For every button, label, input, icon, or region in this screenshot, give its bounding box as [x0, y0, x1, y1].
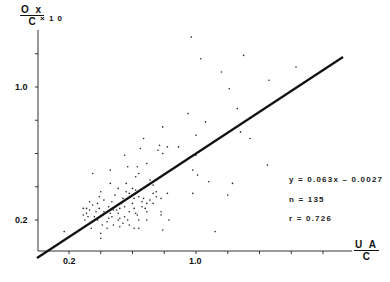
data-point: [160, 198, 162, 200]
data-point: [94, 216, 96, 218]
data-point: [141, 206, 143, 208]
data-point: [116, 209, 118, 211]
data-point: [237, 108, 239, 110]
data-point: [129, 211, 131, 213]
data-point: [103, 199, 105, 201]
data-point: [138, 219, 140, 221]
data-point: [92, 173, 94, 175]
x-axis-label: U A C: [354, 239, 379, 262]
regression-line: [37, 57, 343, 258]
data-point: [132, 203, 134, 205]
data-point: [129, 193, 131, 195]
data-point: [110, 169, 112, 171]
data-point: [90, 228, 92, 230]
data-point: [111, 216, 113, 218]
data-point: [240, 131, 242, 133]
data-point: [187, 113, 189, 115]
data-point: [144, 208, 146, 210]
x-axis-label-denominator: C: [354, 251, 379, 262]
data-point: [295, 66, 297, 68]
data-point: [195, 134, 197, 136]
data-point: [100, 233, 102, 235]
data-point: [227, 194, 229, 196]
data-point: [143, 198, 145, 200]
sample-size: n = 135: [289, 195, 325, 204]
data-point: [83, 208, 85, 210]
data-point: [157, 149, 159, 151]
data-point: [249, 138, 251, 140]
data-point: [124, 216, 126, 218]
data-point: [146, 219, 148, 221]
data-point: [89, 209, 91, 211]
data-point: [149, 179, 151, 181]
data-point: [135, 213, 137, 215]
data-point: [197, 174, 199, 176]
data-point: [125, 191, 127, 193]
data-point: [152, 203, 154, 205]
data-point: [127, 166, 129, 168]
data-point: [167, 146, 169, 148]
data-point: [200, 58, 202, 60]
data-point: [132, 188, 134, 190]
data-point: [113, 224, 115, 226]
x-tick-label-0: 0.2: [63, 256, 76, 266]
data-point: [149, 199, 151, 201]
data-point: [160, 214, 162, 216]
data-point: [110, 183, 112, 185]
data-points: [63, 36, 296, 239]
data-point: [138, 228, 140, 230]
data-point: [89, 201, 91, 203]
data-point: [108, 206, 110, 208]
data-point: [119, 226, 121, 228]
data-point: [162, 126, 164, 128]
regression-equation: y = 0.063x – 0.0027: [289, 175, 383, 184]
data-point: [100, 238, 102, 240]
data-point: [111, 201, 113, 203]
data-point: [106, 221, 108, 223]
data-point: [140, 148, 142, 150]
data-point: [208, 181, 210, 183]
data-point: [156, 196, 158, 198]
data-point: [122, 198, 124, 200]
data-point: [108, 218, 110, 220]
scatter-plot: [0, 0, 390, 282]
data-point: [159, 144, 161, 146]
data-point: [135, 176, 137, 178]
data-point: [124, 206, 126, 208]
data-point: [214, 231, 216, 233]
data-point: [152, 193, 154, 195]
regression-line-path: [37, 57, 343, 258]
data-point: [100, 191, 102, 193]
data-point: [267, 164, 269, 166]
data-point: [143, 138, 145, 140]
data-point: [86, 208, 88, 210]
data-point: [229, 88, 231, 90]
data-point: [141, 201, 143, 203]
data-point: [122, 223, 124, 225]
data-point: [178, 146, 180, 148]
data-point: [162, 153, 164, 155]
data-point: [83, 214, 85, 216]
data-point: [98, 196, 100, 198]
data-point: [138, 173, 140, 175]
data-point: [84, 219, 86, 221]
data-point: [146, 203, 148, 205]
data-point: [232, 183, 234, 185]
data-point: [146, 163, 148, 165]
data-point: [168, 219, 170, 221]
data-point: [190, 36, 192, 38]
data-point: [138, 196, 140, 198]
data-point: [63, 231, 65, 233]
data-point: [243, 55, 245, 57]
data-point: [137, 166, 139, 168]
data-point: [103, 211, 105, 213]
data-point: [117, 188, 119, 190]
data-point: [133, 228, 135, 230]
data-point: [92, 204, 94, 206]
data-point: [124, 154, 126, 156]
data-point: [117, 213, 119, 215]
data-point: [152, 184, 154, 186]
data-point: [162, 229, 164, 231]
data-point: [125, 183, 127, 185]
data-point: [156, 191, 158, 193]
